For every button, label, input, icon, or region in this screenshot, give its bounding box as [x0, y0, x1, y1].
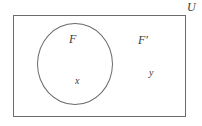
element-y-label: y [149, 68, 153, 78]
complement-f-label: F′ [138, 34, 148, 46]
set-f-label: F [69, 33, 76, 45]
venn-diagram: U F F′ x y [0, 0, 202, 126]
universal-set-label: U [187, 1, 196, 13]
element-x-label: x [75, 76, 79, 86]
